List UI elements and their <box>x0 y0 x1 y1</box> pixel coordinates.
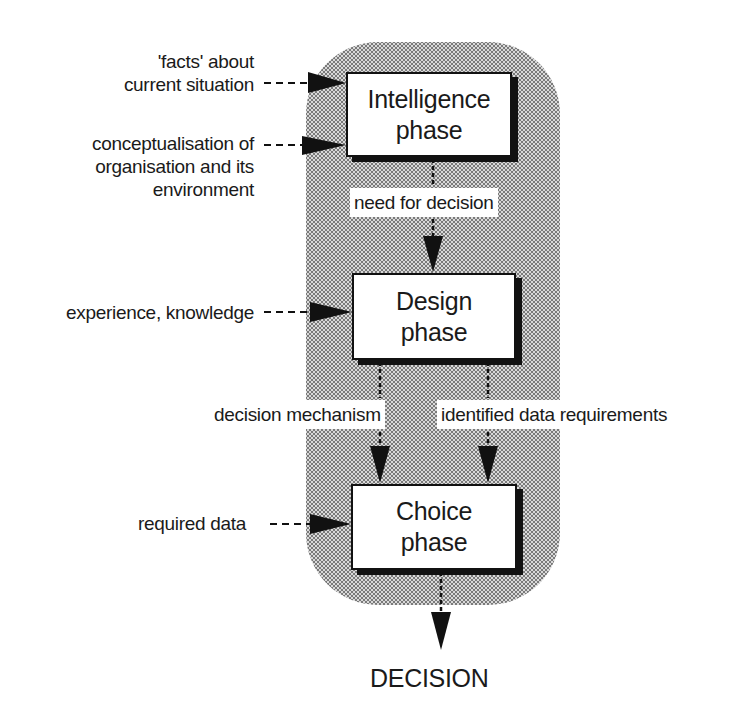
conceptualisation-label: conceptualisation of organisation and it… <box>40 132 254 201</box>
mechanism-arrowhead-icon <box>370 446 390 483</box>
need-for-decision-label: need for decision <box>350 188 498 217</box>
concept-arrowhead-icon <box>302 136 346 155</box>
concept-label-line3: environment <box>40 178 254 201</box>
facts-label-line2: current situation <box>40 73 254 96</box>
identified-data-requirements-label: identified data requirements <box>437 400 671 429</box>
experience-label: experience, knowledge <box>20 301 254 324</box>
facts-label-line1: 'facts' about <box>40 50 254 73</box>
concept-label-line2: organisation and its <box>40 155 254 178</box>
requirements-arrowhead-icon <box>478 446 498 483</box>
required-data-label: required data <box>40 512 246 535</box>
experience-arrowhead-icon <box>310 302 352 322</box>
facts-label: 'facts' about current situation <box>40 50 254 96</box>
decision-mechanism-label: decision mechanism <box>210 400 385 429</box>
decision-output-label: DECISION <box>370 664 488 693</box>
required-data-arrowhead-icon <box>310 514 351 534</box>
need-arrowhead-icon <box>423 236 443 272</box>
decision-arrowhead-icon <box>431 612 451 650</box>
facts-arrowhead-icon <box>308 72 346 93</box>
arrows-layer <box>0 0 753 723</box>
concept-label-line1: conceptualisation of <box>40 132 254 155</box>
